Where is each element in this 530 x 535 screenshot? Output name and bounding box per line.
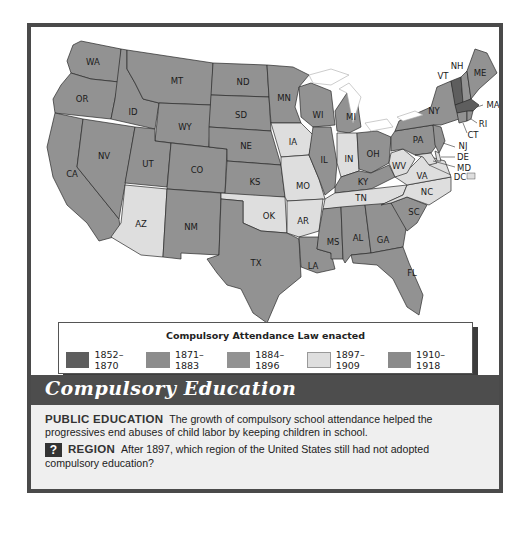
- leader-ri: [471, 119, 477, 123]
- label-fl: FL: [407, 268, 417, 278]
- label-ma: MA: [486, 100, 499, 110]
- label-nc: NC: [421, 187, 433, 197]
- legend-label: 1897–1909: [336, 349, 388, 371]
- label-nd: ND: [237, 77, 250, 87]
- legend-item-1910-1918: 1910–1918: [388, 349, 468, 371]
- caption-public-education: PUBLIC EDUCATION The growth of compulsor…: [45, 413, 485, 439]
- label-ks: KS: [250, 177, 261, 187]
- label-wa: WA: [86, 57, 100, 67]
- legend-swatch: [227, 352, 250, 368]
- label-tx: TX: [249, 258, 261, 268]
- label-de: DE: [457, 152, 469, 162]
- label-mt: MT: [171, 76, 184, 86]
- label-al: AL: [353, 233, 364, 243]
- label-wi: WI: [313, 110, 324, 120]
- label-oh: OH: [366, 149, 379, 159]
- us-map-svg: WA OR CA ID NV MT WY UT AZ CO NM ND SD N…: [31, 27, 499, 327]
- legend-label: 1884–1896: [255, 349, 307, 371]
- label-ny: NY: [428, 106, 440, 116]
- label-nv: NV: [98, 151, 110, 161]
- label-nj: NJ: [459, 141, 468, 151]
- legend-swatch: [146, 352, 169, 368]
- label-sd: SD: [235, 110, 247, 120]
- state-wi: [299, 83, 335, 127]
- label-mo: MO: [296, 181, 310, 191]
- title-banner: Compulsory Education: [31, 375, 499, 405]
- state-fl: [351, 247, 423, 315]
- label-me: ME: [474, 68, 487, 78]
- label-in: IN: [345, 154, 354, 164]
- label-ca: CA: [66, 169, 78, 179]
- label-or: OR: [76, 94, 89, 104]
- label-vt: VT: [437, 71, 449, 81]
- label-dc: DC: [454, 172, 467, 182]
- label-ri: RI: [479, 119, 487, 129]
- label-tn: TN: [354, 193, 367, 203]
- legend-swatch: [66, 352, 89, 368]
- legend-item-1852-1870: 1852–1870: [66, 349, 146, 371]
- caption-region-question: ? REGION After 1897, which region of the…: [45, 443, 485, 470]
- leader-nj: [443, 143, 455, 147]
- map-title: Compulsory Education: [45, 377, 296, 399]
- legend-item-1884-1896: 1884–1896: [227, 349, 307, 371]
- caption-box: PUBLIC EDUCATION The growth of compulsor…: [31, 405, 499, 489]
- legend-swatch: [388, 352, 411, 368]
- label-il: IL: [320, 155, 328, 165]
- label-co: CO: [191, 165, 204, 175]
- label-mn: MN: [277, 93, 291, 103]
- label-nh: NH: [451, 61, 464, 71]
- caption-heading-region: REGION: [68, 443, 115, 455]
- caption-heading-public-education: PUBLIC EDUCATION: [45, 413, 163, 425]
- question-icon: ?: [45, 443, 62, 457]
- label-ky: KY: [358, 177, 369, 187]
- legend-label: 1910–1918: [416, 349, 468, 371]
- legend-item-1897-1909: 1897–1909: [307, 349, 387, 371]
- legend-label: 1852–1870: [94, 349, 146, 371]
- label-ia: IA: [289, 137, 298, 147]
- label-nm: NM: [184, 222, 198, 232]
- label-sc: SC: [408, 207, 419, 217]
- label-ok: OK: [263, 211, 276, 221]
- label-az: AZ: [135, 219, 147, 229]
- label-id: ID: [128, 107, 138, 117]
- map-legend: Compulsory Attendance Law enacted 1852–1…: [58, 322, 473, 374]
- label-wv: WV: [392, 161, 406, 171]
- label-ms: MS: [327, 237, 340, 247]
- map-frame: WA OR CA ID NV MT WY UT AZ CO NM ND SD N…: [27, 23, 503, 493]
- dc-marker: [467, 173, 475, 179]
- label-ga: GA: [377, 235, 390, 245]
- state-ny: [395, 81, 459, 131]
- state-ct: [457, 111, 467, 123]
- legend-label: 1871–1883: [175, 349, 227, 371]
- label-ut: UT: [142, 159, 154, 169]
- label-mi: MI: [346, 112, 356, 122]
- label-ne: NE: [240, 141, 252, 151]
- legend-item-1871-1883: 1871–1883: [146, 349, 226, 371]
- us-map: WA OR CA ID NV MT WY UT AZ CO NM ND SD N…: [31, 27, 499, 375]
- label-ct: CT: [467, 130, 479, 140]
- state-nj: [433, 125, 445, 153]
- label-pa: PA: [413, 135, 424, 145]
- label-wy: WY: [178, 122, 192, 132]
- legend-swatch: [307, 352, 331, 368]
- label-la: LA: [308, 261, 319, 271]
- legend-title: Compulsory Attendance Law enacted: [59, 330, 472, 341]
- leader-ct: [463, 123, 467, 133]
- label-va: VA: [416, 171, 427, 181]
- label-ar: AR: [297, 216, 309, 226]
